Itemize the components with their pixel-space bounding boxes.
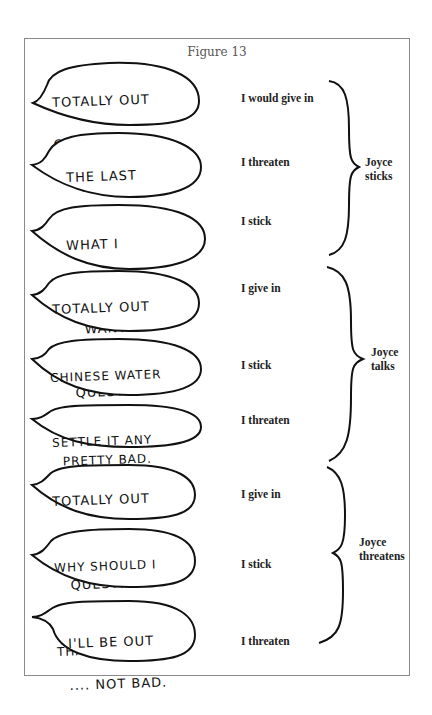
speech-bubble: I'LL BE OUT .... NOT BAD. (29, 599, 199, 665)
speech-bubble: TOTALLY OUT OF THE QUESTION. (29, 59, 204, 129)
curly-brace-icon (325, 265, 371, 463)
response-label: I threaten (241, 156, 290, 168)
speech-bubble: CHINESE WATER TORTURE! .... PRETTY BAD. (29, 337, 204, 399)
group-label: Joyce sticks (365, 155, 392, 183)
curly-brace-icon (317, 465, 363, 647)
bubble-text: I'LL BE OUT .... NOT BAD. (67, 606, 169, 715)
speech-bubble: TOTALLY OUT OF THE QUESTION. (29, 269, 204, 335)
speech-bubble: THE LAST THING I WANT (29, 131, 204, 201)
speech-bubble: WHAT I REALLY WANT (29, 203, 209, 271)
response-label: I stick (241, 215, 271, 227)
response-label: I stick (241, 558, 271, 570)
speech-bubble: SETTLE IT ANY WAY YOU CAN: OK (29, 403, 204, 449)
curly-brace-icon (325, 79, 365, 259)
speech-bubble: WHY SHOULD I PUT UP WITH THAT? -BAD! (29, 527, 199, 591)
response-label: I would give in (241, 92, 314, 104)
response-label: I give in (241, 282, 281, 294)
response-label: I give in (241, 488, 281, 500)
figure-title: Figure 13 (25, 45, 409, 59)
response-label: I threaten (241, 414, 290, 426)
response-label: I stick (241, 359, 271, 371)
speech-bubble: TOTALLY OUT OF THE QUESTION. (29, 463, 199, 523)
group-label: Joyce talks (371, 345, 398, 373)
response-label: I threaten (241, 635, 290, 647)
figure-frame: Figure 13 TOTALLY OUT OF THE QUESTION. I… (24, 38, 410, 676)
group-label: Joyce threatens (359, 535, 405, 563)
